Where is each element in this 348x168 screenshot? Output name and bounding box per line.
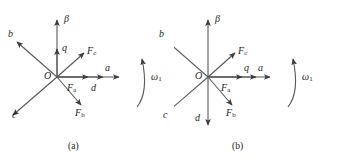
label-fb-a: Fb bbox=[75, 108, 85, 119]
vector-c-axis-a bbox=[13, 77, 57, 115]
label-d-axis-b: d bbox=[195, 113, 200, 123]
label-origin-b: O bbox=[195, 71, 202, 81]
label-c-axis-b: c bbox=[163, 110, 168, 120]
diagram-panel-b: β b c O Fc Fb Fa a q d ω1 (b) bbox=[174, 0, 348, 168]
vector-fc-b bbox=[208, 53, 235, 77]
rotation-arc-b bbox=[288, 59, 296, 107]
label-a-axis-a: a bbox=[105, 63, 110, 73]
vector-fc-a bbox=[57, 53, 84, 77]
label-b-axis-b: b bbox=[159, 29, 164, 39]
vector-c-axis-b bbox=[174, 77, 208, 115]
label-c-axis-a: c bbox=[12, 110, 17, 120]
label-a-axis-b: a bbox=[258, 63, 263, 73]
figure-root: β q b c O Fc Fb Fa a d ω1 (a) bbox=[0, 0, 348, 168]
caption-a: (a) bbox=[68, 141, 79, 151]
label-d-axis-a: d bbox=[91, 83, 96, 93]
label-fc-a: Fc bbox=[87, 46, 96, 57]
caption-b: (b) bbox=[232, 141, 243, 151]
label-omega-a: ω1 bbox=[151, 72, 162, 83]
label-q-axis-b: q bbox=[244, 63, 249, 73]
diagram-panel-a: β q b c O Fc Fb Fa a d ω1 (a) bbox=[0, 0, 174, 168]
label-origin-a: O bbox=[44, 71, 51, 81]
vector-diagram-a-svg bbox=[0, 0, 174, 168]
label-fa-a: Fa bbox=[67, 83, 76, 94]
vector-b-axis-b bbox=[174, 42, 208, 77]
label-beta-b: β bbox=[215, 14, 220, 24]
label-fa-b: Fa bbox=[221, 83, 230, 94]
label-q-a: q bbox=[62, 43, 67, 53]
label-fb-b: Fb bbox=[226, 108, 236, 119]
label-omega-b: ω1 bbox=[302, 72, 313, 83]
label-fc-b: Fc bbox=[238, 46, 247, 57]
vector-diagram-b-svg bbox=[174, 0, 348, 168]
label-beta-a: β bbox=[64, 14, 69, 24]
rotation-arc-a bbox=[137, 59, 145, 107]
label-b-axis-a: b bbox=[8, 29, 13, 39]
